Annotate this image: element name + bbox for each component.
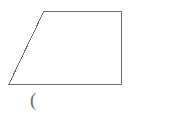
caption-parenthesis: ( xyxy=(30,90,36,110)
figure-canvas: ( xyxy=(0,0,190,121)
trapezoid-shape xyxy=(0,0,190,121)
trapezoid-outline xyxy=(9,11,121,84)
